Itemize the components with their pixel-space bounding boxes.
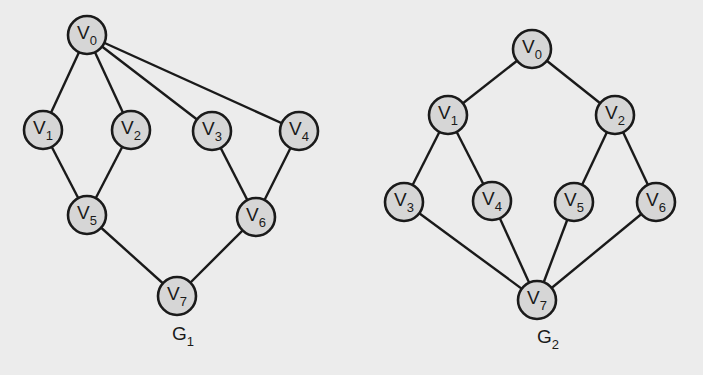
node-v1: V1 bbox=[429, 96, 467, 134]
node-v0: V0 bbox=[513, 30, 551, 68]
node-v5: V5 bbox=[68, 196, 106, 234]
node-v5: V5 bbox=[555, 183, 593, 221]
node-v0: V0 bbox=[68, 16, 106, 54]
graph-label-subscript: 2 bbox=[552, 337, 559, 352]
nodes-g1: V0V1V2V3V4V5V6V7 bbox=[24, 16, 318, 315]
edge-v3-v7 bbox=[404, 202, 537, 300]
node-v6: V6 bbox=[237, 198, 275, 236]
node-v4: V4 bbox=[280, 112, 318, 150]
graph-diagram: V0V1V2V3V4V5V6V7 G1 V0V1V2V3V4V5V6V7 G2 bbox=[0, 0, 703, 375]
graph-label-g2: G2 bbox=[537, 326, 559, 352]
node-v6: V6 bbox=[637, 183, 675, 221]
edges-g1 bbox=[43, 35, 299, 296]
edges-g2 bbox=[404, 49, 656, 300]
nodes-g2: V0V1V2V3V4V5V6V7 bbox=[385, 30, 675, 319]
node-v4: V4 bbox=[473, 182, 511, 220]
node-v3: V3 bbox=[385, 183, 423, 221]
graph-g1: V0V1V2V3V4V5V6V7 G1 bbox=[24, 16, 318, 349]
node-v7: V7 bbox=[518, 281, 556, 319]
graph-g2: V0V1V2V3V4V5V6V7 G2 bbox=[385, 30, 675, 352]
node-v1: V1 bbox=[24, 111, 62, 149]
graph-label-subscript: 1 bbox=[187, 334, 194, 349]
graph-label-g1: G1 bbox=[172, 323, 194, 349]
node-v3: V3 bbox=[193, 112, 231, 150]
node-v2: V2 bbox=[596, 96, 634, 134]
graph-label-letter: G bbox=[537, 326, 552, 347]
node-v7: V7 bbox=[158, 277, 196, 315]
node-v2: V2 bbox=[112, 111, 150, 149]
graph-label-letter: G bbox=[172, 323, 187, 344]
